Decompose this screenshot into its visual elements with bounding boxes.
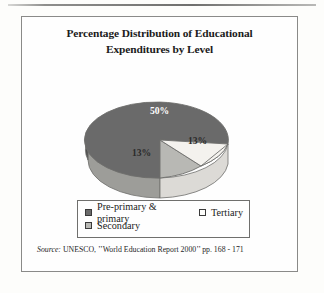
source-text: UNESCO, ’’World Education Report 2000’’ … (63, 245, 244, 254)
pie-label-tertiary: 13% (188, 135, 207, 146)
chart-title-line-1: Percentage Distribution of Educational (66, 27, 252, 39)
legend-item-secondary[interactable]: Secondary (85, 220, 140, 232)
chart-title: Percentage Distribution of Educational E… (22, 26, 297, 57)
chart-legend: Pre-primary & primary Tertiary Secondary (77, 200, 250, 238)
page-top-rule (8, 4, 316, 6)
chart-frame: Percentage Distribution of Educational E… (21, 16, 298, 272)
pie-chart: 50% 13% 13% (22, 69, 299, 201)
legend-item-tertiary[interactable]: Tertiary (199, 207, 243, 219)
source-prefix: Source: (37, 245, 61, 254)
chart-source-note: Source: UNESCO, ’’World Education Report… (37, 245, 244, 254)
legend-row-1: Pre-primary & primary Tertiary (85, 206, 243, 219)
pie-chart-graphic (22, 69, 299, 201)
legend-label-tertiary: Tertiary (211, 207, 243, 219)
pie-label-pre-primary: 50% (150, 105, 169, 116)
legend-swatch-secondary-icon (85, 222, 92, 229)
chart-title-line-2: Expenditures by Level (22, 42, 297, 58)
legend-swatch-tertiary-icon (199, 209, 206, 216)
legend-label-secondary: Secondary (97, 220, 140, 232)
legend-swatch-pre-primary-icon (85, 209, 92, 216)
pie-label-secondary: 13% (132, 147, 151, 158)
